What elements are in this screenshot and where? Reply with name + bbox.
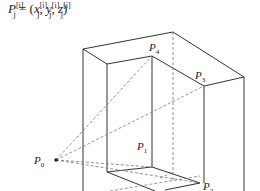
label-p1: P1 — [136, 140, 148, 155]
p2-bottom-edge — [165, 183, 200, 190]
outer-top-front-edge — [83, 49, 107, 64]
solid-edges — [83, 32, 244, 191]
floor-corner-dashed — [160, 172, 173, 178]
p0-dot — [54, 158, 58, 162]
ray-p0-p2 — [56, 160, 200, 183]
box-diagram: P0 P1 P2 P3 P4 — [0, 0, 260, 191]
inner-bottom-edge — [107, 167, 152, 172]
p1-p2-edge — [152, 167, 200, 183]
ray-p0-p1 — [56, 160, 152, 167]
ray-p0-p3 — [56, 86, 204, 160]
label-p0: P0 — [33, 154, 45, 169]
dashed-rays — [56, 32, 204, 191]
label-p4: P4 — [148, 41, 160, 56]
p3-right-edge — [204, 77, 244, 86]
label-p2: P2 — [202, 180, 214, 191]
